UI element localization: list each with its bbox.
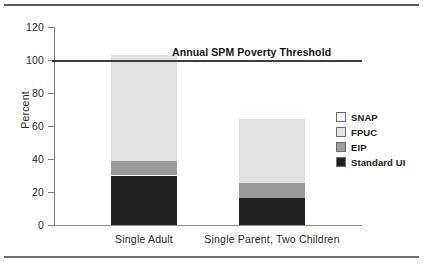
- y-tick-0: [48, 225, 54, 226]
- threshold-line: [52, 60, 362, 62]
- figure-bottom-rule: [4, 256, 419, 258]
- bar-segment-fpuc: [111, 55, 177, 161]
- legend-swatch-snap: [336, 112, 346, 122]
- y-tick-label-120: 120: [0, 22, 44, 33]
- chart-figure: Percent 020406080100120 Annual SPM Pover…: [0, 0, 423, 265]
- bar-segment-snap: [111, 48, 177, 55]
- bar-segment-standard-ui: [111, 176, 177, 226]
- y-tick-label-60: 60: [0, 121, 44, 132]
- legend-label-snap: SNAP: [351, 112, 378, 123]
- chart-legend: SNAPFPUCEIPStandard UI: [336, 110, 405, 170]
- bar-segment-eip: [111, 161, 177, 175]
- y-axis-title: Percent: [19, 75, 31, 145]
- legend-item-snap[interactable]: SNAP: [336, 110, 405, 124]
- legend-label-fpuc: FPUC: [351, 127, 377, 138]
- bar-segment-standard-ui: [239, 198, 305, 225]
- bar-segment-snap: [239, 105, 305, 120]
- threshold-label: Annual SPM Poverty Threshold: [172, 46, 331, 58]
- x-axis-spine: [54, 225, 362, 226]
- y-tick-label-100: 100: [0, 55, 44, 66]
- bar-single-adult: [111, 27, 177, 225]
- y-tick-label-40: 40: [0, 154, 44, 165]
- plot-area: Annual SPM Poverty Threshold: [54, 27, 362, 225]
- legend-swatch-standard-ui: [336, 157, 346, 167]
- y-tick-label-20: 20: [0, 187, 44, 198]
- legend-item-fpuc[interactable]: FPUC: [336, 125, 405, 139]
- legend-item-eip[interactable]: EIP: [336, 140, 405, 154]
- legend-swatch-eip: [336, 142, 346, 152]
- legend-item-standard-ui[interactable]: Standard UI: [336, 155, 405, 169]
- legend-label-standard-ui: Standard UI: [351, 157, 405, 168]
- bar-segment-eip: [239, 183, 305, 198]
- figure-top-rule: [4, 4, 419, 6]
- legend-label-eip: EIP: [351, 142, 367, 153]
- y-tick-label-80: 80: [0, 88, 44, 99]
- legend-swatch-fpuc: [336, 127, 346, 137]
- bar-segment-fpuc: [239, 119, 305, 183]
- y-tick-label-0: 0: [0, 220, 44, 231]
- x-tick-label-single-parent-two-children: Single Parent, Two Children: [172, 233, 372, 245]
